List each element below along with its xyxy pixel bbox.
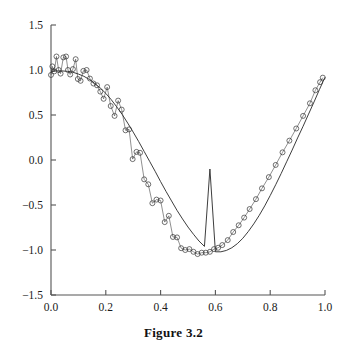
x-tick-label: 1.0 [318,301,333,313]
x-tick-label: 0.4 [153,301,168,313]
smooth-fit-curve [51,71,325,252]
y-tick-label: 0.0 [29,154,44,166]
x-tick-label: 0.8 [263,301,278,313]
x-tick-label: 0.2 [99,301,114,313]
y-tick-label: −1.5 [22,289,43,301]
y-tick-label: 0.5 [29,109,44,121]
y-tick-label: 1.0 [29,64,44,76]
noisy-data-polyline [51,57,323,255]
figure-container: −1.5−1.0−0.50.00.51.01.50.00.20.40.60.81… [0,0,347,351]
y-tick-label: −0.5 [22,199,43,211]
figure-caption: Figure 3.2 [0,325,347,341]
y-tick-label: −1.0 [22,244,43,256]
chart-canvas: −1.5−1.0−0.50.00.51.01.50.00.20.40.60.81… [0,0,347,351]
x-tick-label: 0.0 [44,301,59,313]
y-tick-label: 1.5 [29,19,44,31]
x-tick-label: 0.6 [208,301,223,313]
